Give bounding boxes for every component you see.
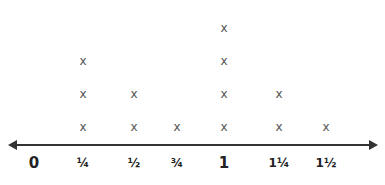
tick-label: ½ bbox=[128, 156, 140, 170]
tick-label: 1¼ bbox=[269, 156, 290, 170]
tick-label: 0 bbox=[29, 154, 39, 172]
number-line-axis bbox=[14, 144, 374, 146]
x-mark: x bbox=[220, 87, 227, 101]
x-mark: x bbox=[79, 87, 86, 101]
tick-label: ¾ bbox=[171, 156, 183, 170]
x-mark: x bbox=[220, 54, 227, 68]
x-mark: x bbox=[220, 120, 227, 134]
x-mark: x bbox=[220, 21, 227, 35]
tick-label: ¼ bbox=[77, 156, 89, 170]
x-mark: x bbox=[130, 87, 137, 101]
x-mark: x bbox=[322, 120, 329, 134]
right-arrow-icon bbox=[369, 140, 378, 150]
x-mark: x bbox=[79, 120, 86, 134]
left-arrow-icon bbox=[8, 140, 17, 150]
tick-label: 1 bbox=[219, 154, 229, 172]
tick-label: 1½ bbox=[316, 156, 337, 170]
x-mark: x bbox=[275, 120, 282, 134]
x-mark: x bbox=[79, 54, 86, 68]
x-mark: x bbox=[130, 120, 137, 134]
x-mark: x bbox=[173, 120, 180, 134]
x-mark: x bbox=[275, 87, 282, 101]
